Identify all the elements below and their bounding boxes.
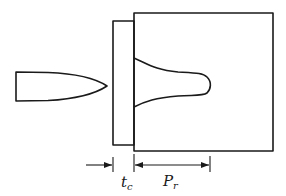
target-block <box>134 13 273 151</box>
cover-thickness-label: tc <box>121 173 133 192</box>
cover-plate <box>113 21 134 145</box>
projectile-shape <box>16 72 107 101</box>
residual-penetration-label: Pr <box>162 172 179 191</box>
penetration-crater <box>134 58 210 107</box>
penetration-diagram: tc Pr <box>0 0 286 196</box>
